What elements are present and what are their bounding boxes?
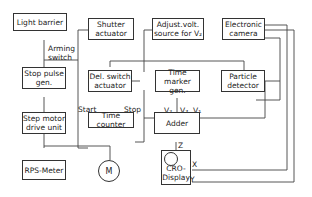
light-barrier-block: Light barrier: [13, 13, 67, 31]
stop-pulse-gen-block: Stop pulse gen.: [22, 67, 66, 89]
time-marker-gen-block: Time marker gen.: [155, 70, 200, 92]
step-motor-drive-unit-block: Step motor drive unit: [22, 112, 66, 134]
shutter-actuator-block: Shutter actuator: [88, 18, 134, 40]
particle-detector-block: Particle detector: [221, 70, 265, 92]
electronic-camera-block: Electronic camera: [222, 18, 265, 40]
cro-screen-icon: [164, 152, 178, 166]
adjust-volt-source-block: Adjust.volt. source for V₂: [152, 18, 204, 40]
z-label: Z: [178, 141, 183, 150]
adder-block: Adder: [154, 112, 200, 134]
rps-meter-block: RPS-Meter: [22, 160, 66, 180]
motor-icon: M: [98, 160, 120, 182]
x-label: X: [192, 160, 197, 169]
time-counter-block: Time counter: [88, 112, 134, 128]
del-switch-actuator-block: Del. switch actuator: [88, 70, 132, 92]
y-label: Y: [190, 175, 195, 184]
arming-switch-label: Arming switch: [48, 44, 75, 62]
